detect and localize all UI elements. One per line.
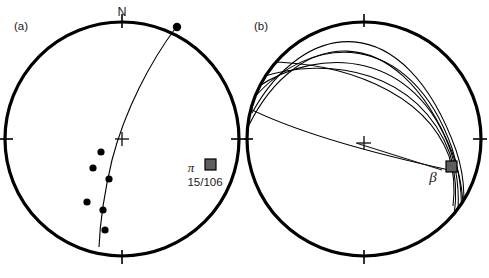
panel-b-canvas: (b): [244, 0, 489, 278]
panel-a-legend: π 15/106: [187, 159, 222, 188]
great-circle: [266, 62, 454, 206]
panel-a-data-points: [83, 23, 181, 234]
panel-b-great-circles: [248, 42, 464, 248]
data-point: [101, 226, 108, 233]
data-point: [89, 164, 96, 171]
great-circle: [256, 63, 458, 228]
panel-b-stereonet: (b): [244, 0, 489, 278]
legend-pi-marker-icon: [205, 159, 216, 170]
panel-b-tag: (b): [254, 20, 268, 32]
data-point: [105, 175, 112, 182]
panel-b-beta-marker-icon: [446, 161, 457, 172]
panel-a-canvas: (a) N: [0, 0, 245, 278]
great-circle: [248, 108, 449, 170]
great-circle: [252, 52, 461, 236]
data-point: [83, 198, 90, 205]
panel-a-pi-great-circle: [99, 26, 177, 247]
legend-pi-symbol: π: [188, 160, 195, 175]
panel-b-beta-label: β: [428, 169, 437, 185]
panel-b-beta-leader-line: [356, 143, 442, 170]
legend-count-text: 15/106: [187, 176, 222, 188]
great-circle: [249, 51, 463, 248]
data-point: [173, 23, 181, 31]
stereonet-figure: (a) N: [0, 0, 489, 278]
data-point: [97, 148, 104, 155]
panel-a-stereonet: (a) N: [0, 0, 245, 278]
panel-a-north-label: N: [117, 5, 126, 19]
panel-a-tag: (a): [14, 20, 28, 32]
data-point: [99, 206, 106, 213]
